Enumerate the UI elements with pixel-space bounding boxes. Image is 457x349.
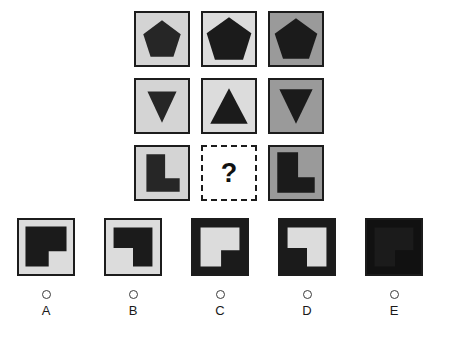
answer-option-c-label: C (189, 304, 251, 317)
answer-option-d-figure[interactable] (278, 218, 336, 276)
matrix-reasoning-puzzle: ? A (0, 0, 457, 349)
answer-option-a-radio[interactable] (42, 290, 51, 299)
pentagon-icon (270, 13, 322, 65)
question-mark-glyph: ? (221, 160, 238, 187)
matrix-grid: ? (134, 11, 324, 201)
l-shape-icon (19, 220, 73, 274)
answer-option-a-figure[interactable] (17, 218, 75, 276)
matrix-cell-r2c3 (268, 78, 324, 134)
answer-option-d-radio[interactable] (303, 290, 312, 299)
answer-option-c-figure[interactable] (191, 218, 249, 276)
answer-options: A B C (0, 218, 457, 338)
triangle-down-icon (270, 80, 322, 132)
answer-option-b-label: B (102, 304, 164, 317)
answer-option-e-radio[interactable] (390, 290, 399, 299)
l-shape-icon (193, 220, 247, 274)
matrix-cell-r1c3 (268, 11, 324, 67)
answer-option-d-label: D (276, 304, 338, 317)
triangle-up-icon (203, 80, 255, 132)
l-shape-icon (136, 147, 188, 199)
answer-option-c-radio[interactable] (216, 290, 225, 299)
matrix-cell-r3c1 (134, 145, 190, 201)
answer-option-e[interactable]: E (363, 218, 425, 317)
answer-option-c[interactable]: C (189, 218, 251, 317)
answer-option-b-figure[interactable] (104, 218, 162, 276)
answer-option-a-label: A (15, 304, 77, 317)
answer-option-e-figure[interactable] (365, 218, 423, 276)
matrix-cell-r3c3 (268, 145, 324, 201)
triangle-down-icon (136, 80, 188, 132)
answer-option-b-radio[interactable] (129, 290, 138, 299)
matrix-cell-r2c2 (201, 78, 257, 134)
answer-option-a[interactable]: A (15, 218, 77, 317)
answer-option-e-label: E (363, 304, 425, 317)
answer-option-d[interactable]: D (276, 218, 338, 317)
answer-option-b[interactable]: B (102, 218, 164, 317)
matrix-cell-r1c1 (134, 11, 190, 67)
matrix-cell-r1c2 (201, 11, 257, 67)
matrix-cell-r2c1 (134, 78, 190, 134)
matrix-cell-r3c2-missing: ? (201, 145, 257, 201)
pentagon-icon (136, 13, 188, 65)
l-shape-icon (106, 220, 160, 274)
l-shape-icon (367, 220, 421, 274)
l-shape-icon (270, 147, 322, 199)
l-shape-icon (280, 220, 334, 274)
pentagon-icon (203, 13, 255, 65)
